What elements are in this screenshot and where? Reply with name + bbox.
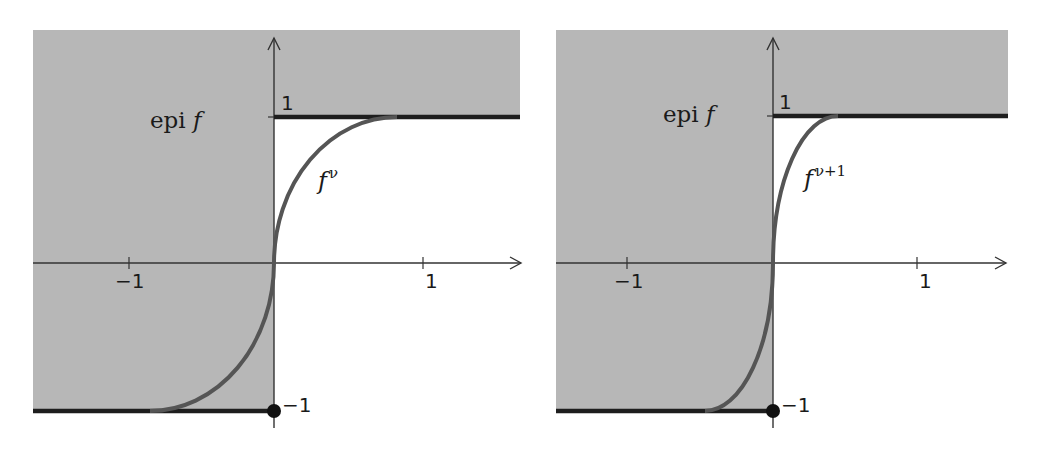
epigraph-region: [33, 30, 520, 411]
x-tick-label-minus-1: −1: [115, 269, 144, 293]
y-tick-label-minus-1: −1: [282, 393, 311, 417]
epi-label: epi f: [150, 107, 205, 133]
x-tick-label-minus-1: −1: [614, 269, 643, 293]
right-panel: epi f fν+1 −1 1 1 −1: [556, 30, 1008, 428]
closed-point-dot: [267, 404, 281, 418]
y-tick-label-minus-1: −1: [781, 393, 810, 417]
y-tick-label-1: 1: [779, 90, 792, 114]
x-tick-label-1: 1: [919, 269, 932, 293]
epi-label: epi f: [663, 101, 718, 127]
epigraph-region: [556, 30, 1008, 411]
curve-label-f-nu: fν: [316, 164, 338, 195]
closed-point-dot: [766, 404, 780, 418]
left-panel: epi f fν −1 1 1 −1: [33, 30, 521, 428]
x-tick-label-1: 1: [425, 269, 438, 293]
figure: epi f fν −1 1 1 −1 epi f fν+1 −1 1: [0, 0, 1037, 455]
curve-label-f-nu-plus-1: fν+1: [802, 162, 846, 193]
y-tick-label-1: 1: [281, 91, 294, 115]
